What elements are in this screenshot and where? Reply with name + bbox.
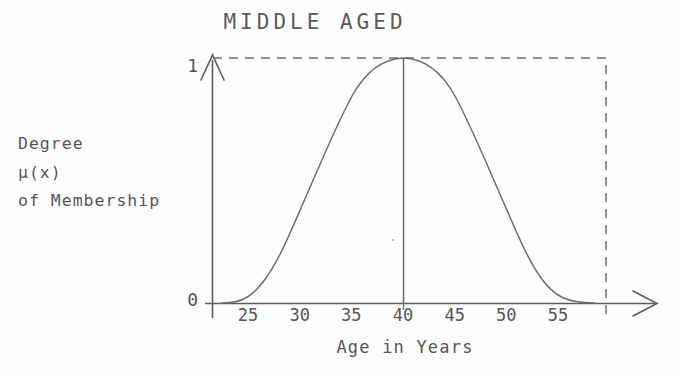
membership-curve (222, 58, 595, 303)
y-tick-label-0: 0 (176, 291, 198, 309)
y-tick-label-1: 1 (176, 57, 198, 75)
x-axis-label: Age in Years (285, 339, 525, 356)
x-tick-label: 45 (435, 307, 475, 324)
x-tick-label: 40 (383, 307, 423, 324)
scan-speck (392, 239, 394, 241)
chart-title: MIDDLE AGED (0, 12, 630, 33)
y-axis-label-line-1: Degree (18, 136, 160, 160)
y-axis-label-line-2: of Membership (18, 193, 160, 217)
chart-canvas: MIDDLE AGED Degree of Membership μ(x) 1 … (0, 0, 680, 376)
x-tick-label: 25 (228, 307, 268, 324)
x-tick-label: 35 (331, 307, 371, 324)
x-tick-label: 30 (280, 307, 320, 324)
y-axis-symbol-label: μ(x) (18, 165, 62, 182)
x-tick-label: 50 (486, 307, 526, 324)
unity-dashed-guide-line (213, 58, 606, 318)
x-tick-label: 55 (538, 307, 578, 324)
